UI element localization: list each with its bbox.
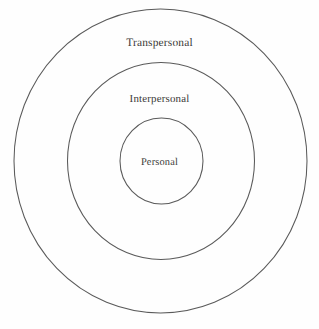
ring-label-interpersonal: Interpersonal: [0, 93, 319, 105]
ring-label-transpersonal: Transpersonal: [0, 37, 319, 49]
ring-label-personal: Personal: [0, 157, 319, 168]
concentric-circles-diagram: Transpersonal Interpersonal Personal: [0, 0, 319, 329]
